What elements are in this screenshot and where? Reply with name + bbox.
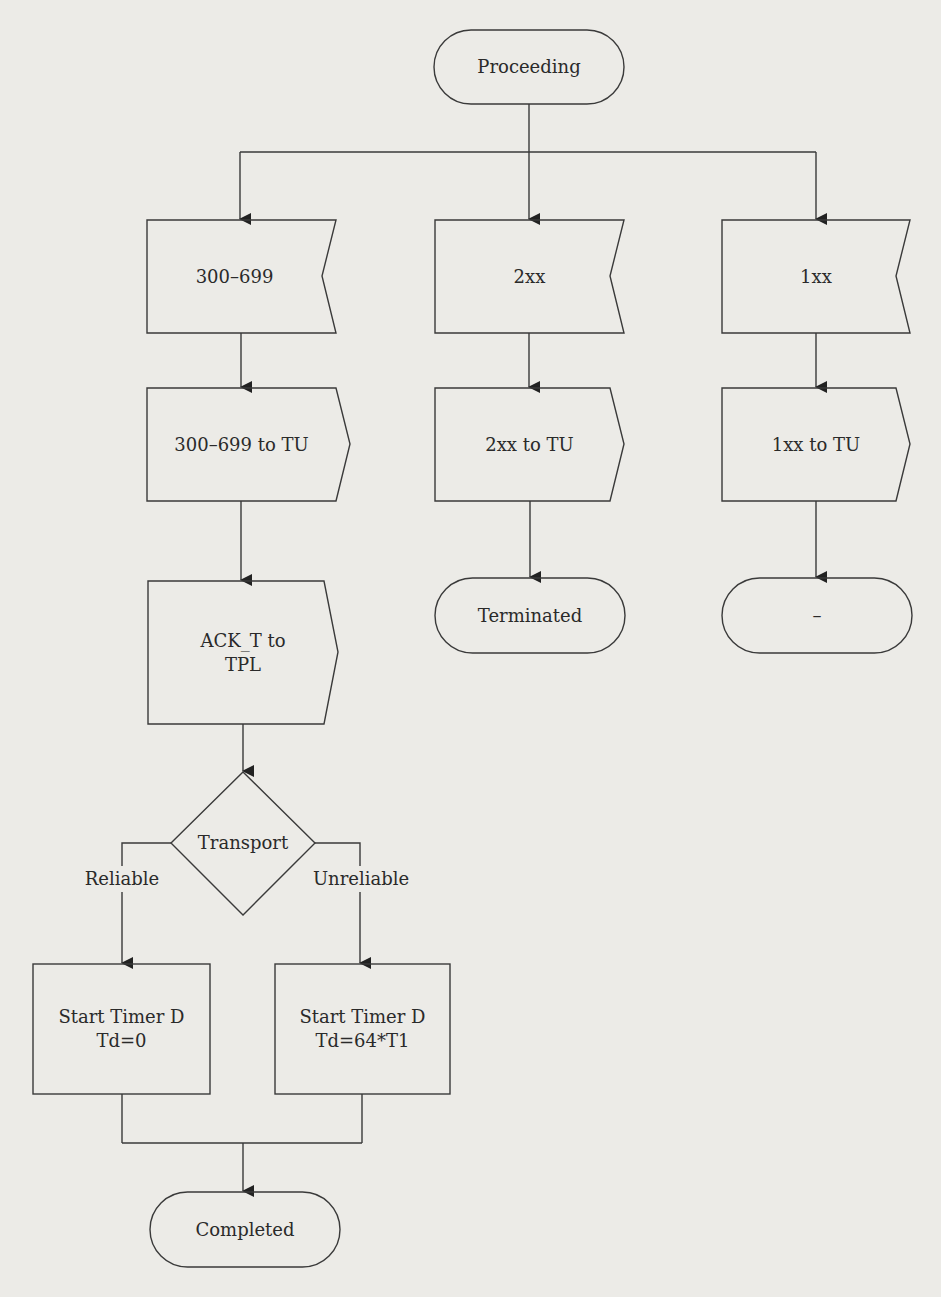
send-300-699-to-tu: 300–699 to TU — [147, 388, 336, 501]
state-completed: Completed — [150, 1192, 340, 1267]
state-terminated: Terminated — [435, 578, 625, 653]
send-2xx-to-tu: 2xx to TU — [435, 388, 624, 501]
timer-reliable: Start Timer D Td=0 — [33, 964, 210, 1094]
receive-1xx: 1xx — [722, 220, 910, 333]
edge-label-unreliable: Unreliable — [306, 866, 416, 892]
edge-label-reliable: Reliable — [80, 866, 164, 892]
state-dash: – — [722, 578, 912, 653]
receive-2xx: 2xx — [435, 220, 624, 333]
timer-unreliable: Start Timer D Td=64*T1 — [275, 964, 450, 1094]
state-proceeding: Proceeding — [434, 30, 624, 104]
send-ack-to-tpl: ACK_T to TPL — [148, 581, 338, 724]
decision-transport: Transport — [171, 830, 315, 856]
receive-300-699: 300–699 — [147, 220, 322, 333]
send-1xx-to-tu: 1xx to TU — [722, 388, 910, 501]
